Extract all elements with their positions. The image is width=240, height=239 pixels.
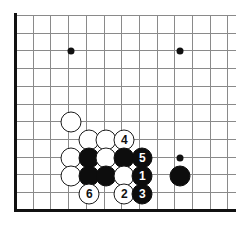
grid-line-horizontal [15, 104, 236, 105]
stone-move-number: 4 [121, 134, 127, 147]
stone-move-number: 6 [86, 188, 92, 201]
grid-line-vertical [157, 15, 158, 210]
stone-move-number: 3 [139, 188, 145, 201]
black-stone-5[interactable] [170, 166, 191, 187]
white-move-6[interactable]: 6 [79, 184, 100, 205]
grid-line-horizontal [15, 68, 236, 69]
white-stone-1[interactable] [61, 112, 82, 133]
star-point-lower-right [177, 155, 184, 162]
grid-line-horizontal [15, 33, 236, 34]
board-edge-bottom [14, 209, 236, 212]
grid-line-horizontal [15, 121, 236, 122]
grid-line-vertical [210, 15, 211, 210]
black-move-3[interactable]: 3 [132, 184, 153, 205]
grid-line-horizontal [15, 50, 236, 51]
grid-line-vertical [227, 15, 228, 210]
grid-line-horizontal [15, 86, 236, 87]
go-board-diagram: 451623 [0, 0, 240, 239]
stone-move-number: 1 [139, 170, 145, 183]
grid-line-vertical [33, 15, 34, 210]
stone-move-number: 5 [139, 152, 145, 165]
board-edge-left [14, 13, 17, 212]
star-point-upper-left [68, 48, 75, 55]
stone-move-number: 2 [121, 188, 127, 201]
star-point-upper-right [177, 48, 184, 55]
grid-line-vertical [192, 15, 193, 210]
grid-line-horizontal [15, 15, 236, 16]
grid-line-vertical [50, 15, 51, 210]
